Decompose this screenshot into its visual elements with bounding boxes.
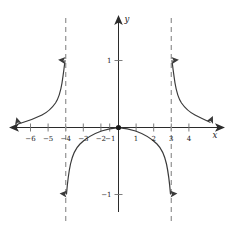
x-tick-label-4: 4 [187,135,192,143]
curve-left-upper-branch [18,61,65,125]
x-tick-label--1: −1 [105,135,115,143]
x-tick-label--6: −6 [25,135,36,143]
y-tick-label-1: 1 [107,57,111,65]
x-tick-labels: −6 −5 −4 −3 −2 −1 1 2 3 4 [25,135,191,143]
curve-right-upper-branch [172,61,210,123]
x-tick-label--3: −3 [78,135,88,143]
x-axis-label: x [213,130,218,140]
origin-point [116,125,121,130]
graph-figure: −6 −5 −4 −3 −2 −1 1 2 3 4 1 −1 x y [0,0,232,230]
x-tick-label-2: 2 [151,135,155,143]
x-tick-label--5: −5 [43,135,53,143]
function-plot: −6 −5 −4 −3 −2 −1 1 2 3 4 1 −1 x y [0,0,232,230]
x-tick-label-3: 3 [169,135,173,143]
y-axis-label: y [124,14,130,24]
x-tick-label--4: −4 [61,135,72,143]
y-tick-label--1: −1 [101,191,111,199]
x-tick-label-1: 1 [134,135,138,143]
